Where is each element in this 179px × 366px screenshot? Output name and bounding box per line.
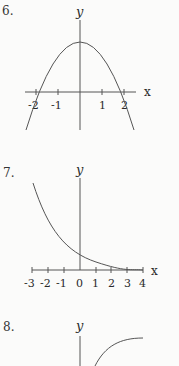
tick-label: -3 <box>24 277 35 290</box>
tick-label: 1 <box>99 99 106 112</box>
graph-8-growth: y <box>0 316 179 366</box>
y-axis-label: y <box>75 318 84 333</box>
tick-label: -1 <box>51 99 62 112</box>
tick-label: 1 <box>92 277 99 290</box>
graph-7-exponential-decay: y x -3 -2 -1 0 1 2 3 4 <box>0 160 179 290</box>
graph-6-parabola: y x -2 -1 1 2 <box>0 0 179 130</box>
tick-label: -2 <box>28 99 39 112</box>
growth-curve <box>95 338 143 366</box>
tick-label: 3 <box>124 277 131 290</box>
tick-label: -1 <box>56 277 67 290</box>
y-axis-label: y <box>75 4 84 19</box>
tick-label: 0 <box>76 277 83 290</box>
tick-label: 4 <box>139 277 146 290</box>
x-axis-label: x <box>144 85 151 99</box>
x-axis-label: x <box>151 264 158 278</box>
tick-label: -2 <box>40 277 51 290</box>
tick-label: 2 <box>108 277 115 290</box>
y-axis-label: y <box>75 162 84 177</box>
decay-curve <box>33 183 143 270</box>
